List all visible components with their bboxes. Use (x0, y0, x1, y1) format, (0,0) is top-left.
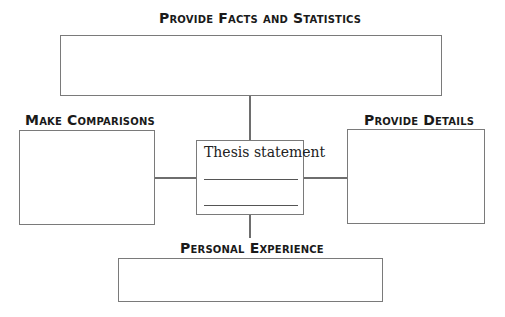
connector-right (303, 177, 347, 179)
facts-statistics-box[interactable] (60, 35, 442, 96)
connector-bottom (249, 214, 251, 238)
personal-experience-box[interactable] (118, 258, 383, 302)
make-comparisons-box[interactable] (19, 130, 155, 225)
connector-top (249, 96, 251, 140)
provide-details-label: Provide Details (364, 113, 474, 127)
provide-details-box[interactable] (347, 129, 485, 224)
connector-left (155, 177, 196, 179)
thesis-blank-line-1[interactable] (204, 179, 298, 180)
thesis-statement-label: Thesis statement (204, 144, 325, 160)
make-comparisons-label: Make Comparisons (25, 113, 155, 127)
thesis-statement-box[interactable]: Thesis statement (196, 140, 304, 215)
facts-statistics-label: Provide Facts and Statistics (159, 11, 361, 25)
personal-experience-label: Personal Experience (180, 241, 324, 255)
thesis-blank-line-2[interactable] (204, 205, 298, 206)
